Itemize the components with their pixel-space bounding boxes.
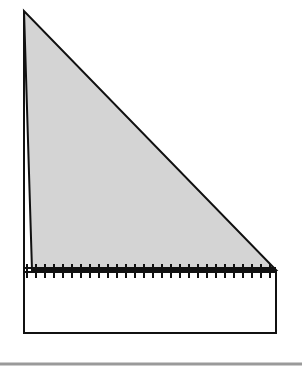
lower-rectangle [24, 272, 276, 333]
triangle-diagram [0, 0, 302, 373]
shaded-triangle [24, 11, 276, 270]
